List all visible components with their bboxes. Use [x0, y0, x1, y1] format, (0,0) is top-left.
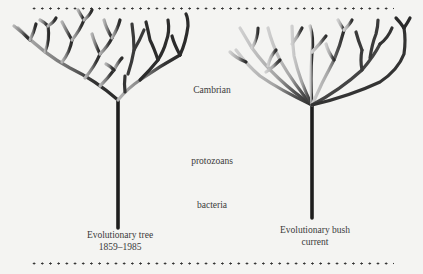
right-tree-caption: Evolutionary bush current — [255, 224, 375, 248]
era-label-bacteria: bacteria — [165, 199, 259, 211]
era-label-cambrian: Cambrian — [165, 84, 259, 96]
right-tree-period: current — [255, 236, 375, 248]
evolutionary-bush-diagram — [230, 18, 410, 218]
evolutionary-tree-diagram — [14, 10, 188, 228]
left-tree-period: 1859–1985 — [60, 241, 180, 253]
era-label-protozoans: protozoans — [165, 155, 259, 167]
left-tree-title: Evolutionary tree — [60, 229, 180, 241]
right-tree-title: Evolutionary bush — [255, 224, 375, 236]
left-tree-caption: Evolutionary tree 1859–1985 — [60, 229, 180, 253]
